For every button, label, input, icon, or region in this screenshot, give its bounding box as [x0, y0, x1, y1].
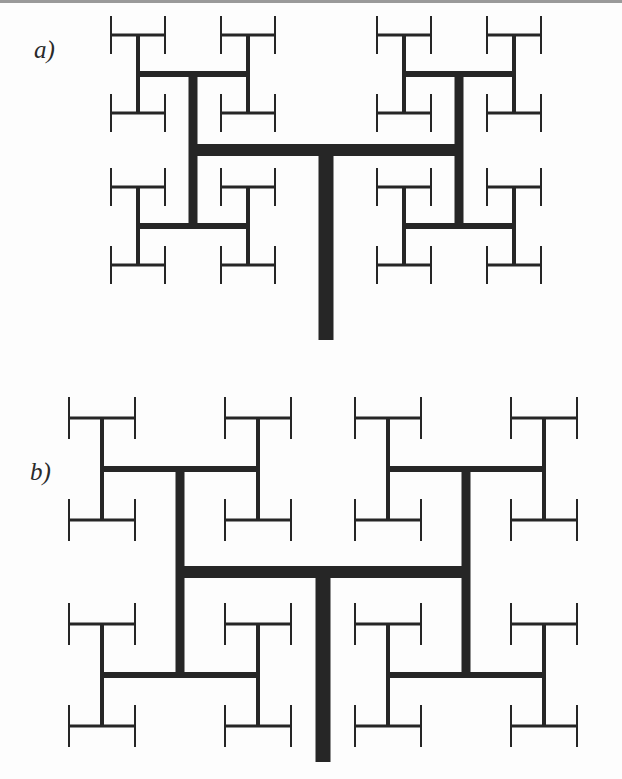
h-tree-a — [111, 16, 541, 340]
h-tree-b — [69, 397, 577, 762]
fractal-tree-diagrams — [0, 0, 622, 779]
